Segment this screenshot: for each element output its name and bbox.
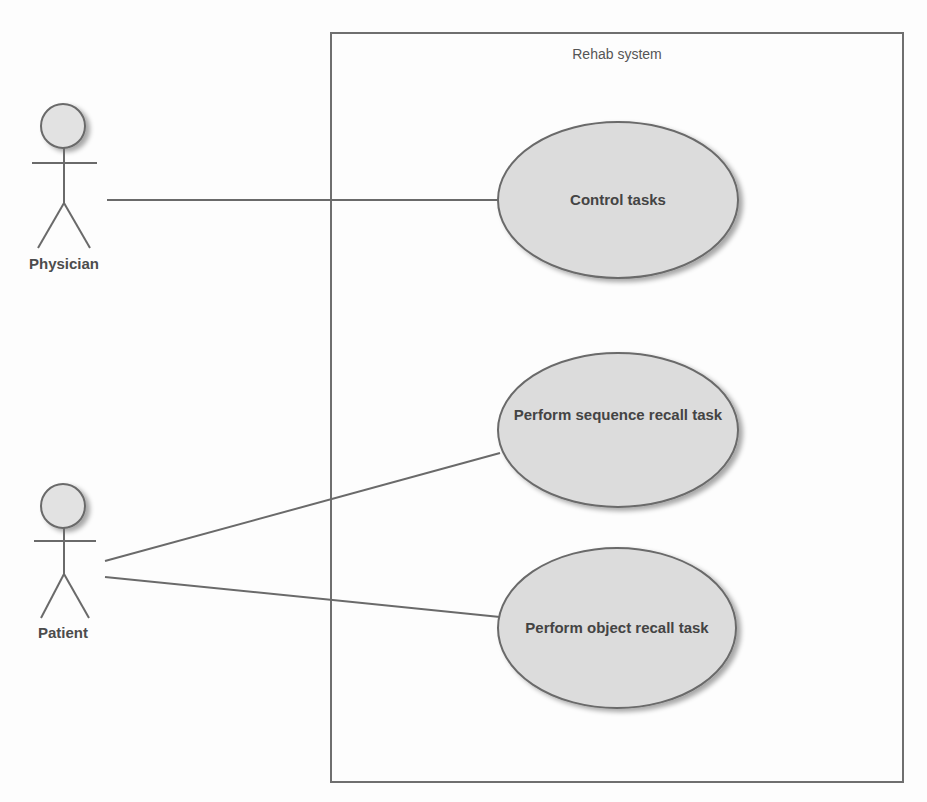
association-patient-object-recall [105, 577, 500, 617]
association-patient-sequence-recall [105, 453, 500, 561]
system-title: Rehab system [572, 46, 661, 62]
actor-physician-icon[interactable] [32, 104, 97, 248]
actor-patient-label: Patient [38, 624, 88, 641]
usecase-sequence-recall[interactable] [498, 353, 738, 507]
use-case-diagram [0, 0, 927, 802]
usecase-control-tasks-label: Control tasks [518, 189, 718, 211]
usecase-object-recall-label: Perform object recall task [499, 617, 735, 639]
usecase-sequence-recall-label: Perform sequence recall task [508, 404, 728, 426]
actor-physician-label: Physician [29, 255, 99, 272]
actor-patient-icon[interactable] [34, 484, 96, 618]
